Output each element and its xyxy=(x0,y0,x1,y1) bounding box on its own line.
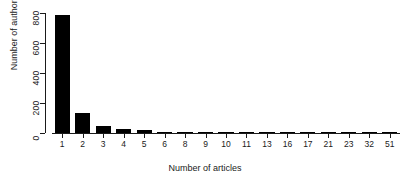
x-axis-tick xyxy=(83,134,84,138)
x-axis-tick xyxy=(349,134,350,138)
x-axis-tick-label: 51 xyxy=(385,139,394,149)
x-axis-tick xyxy=(124,134,125,138)
y-axis-title: Number of authors xyxy=(9,0,19,93)
x-axis-tick xyxy=(246,134,247,138)
bar xyxy=(55,15,70,134)
x-axis-tick-label: 4 xyxy=(121,139,126,149)
x-axis-tick-label: 9 xyxy=(203,139,208,149)
x-axis-tick-label: 23 xyxy=(344,139,353,149)
x-axis-tick xyxy=(165,134,166,138)
x-axis-tick-label: 5 xyxy=(142,139,147,149)
x-axis-tick xyxy=(226,134,227,138)
x-axis-tick xyxy=(267,134,268,138)
x-axis-tick-label: 16 xyxy=(283,139,292,149)
bar xyxy=(96,126,111,133)
x-axis-tick-label: 8 xyxy=(183,139,188,149)
bar xyxy=(75,113,90,133)
y-axis-tick xyxy=(40,133,45,134)
x-axis-tick-label: 32 xyxy=(365,139,374,149)
x-axis-tick xyxy=(103,134,104,138)
x-axis-tick-label: 10 xyxy=(221,139,230,149)
x-axis-tick xyxy=(144,134,145,138)
y-axis-tick-label: 0 xyxy=(31,136,41,141)
x-axis-tick-label: 1 xyxy=(60,139,65,149)
x-axis-tick xyxy=(287,134,288,138)
x-axis-tick-label: 17 xyxy=(303,139,312,149)
bar-chart-figure: 0200400600800 Number of authors 12345689… xyxy=(0,0,410,181)
x-axis-tick-label: 13 xyxy=(262,139,271,149)
x-axis-tick-label: 21 xyxy=(324,139,333,149)
y-axis-tick-label: 200 xyxy=(31,101,41,116)
x-axis-tick xyxy=(369,134,370,138)
x-axis-tick xyxy=(328,134,329,138)
x-axis-tick-label: 3 xyxy=(101,139,106,149)
plot-area xyxy=(52,13,400,133)
x-axis-tick-label: 6 xyxy=(162,139,167,149)
y-axis-tick-label: 800 xyxy=(31,11,41,26)
x-axis-tick-label: 11 xyxy=(242,139,251,149)
x-axis-tick xyxy=(390,134,391,138)
x-axis-tick-label: 2 xyxy=(80,139,85,149)
y-axis-tick-label: 400 xyxy=(31,71,41,86)
y-axis-line xyxy=(45,13,46,133)
x-axis-tick xyxy=(308,134,309,138)
x-axis-tick xyxy=(206,134,207,138)
y-axis-tick-label: 600 xyxy=(31,41,41,56)
x-axis-tick xyxy=(185,134,186,138)
x-axis-tick xyxy=(62,134,63,138)
x-axis-title: Number of articles xyxy=(0,163,410,173)
